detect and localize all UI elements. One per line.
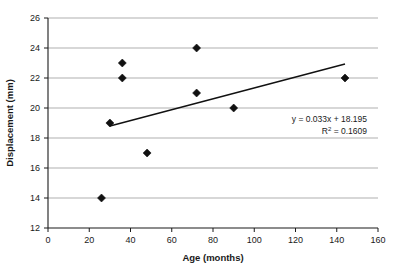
x-tick-marks xyxy=(48,228,378,232)
y-tick-labels: 12 14 16 18 20 22 24 26 xyxy=(30,13,40,233)
y-tick-label: 24 xyxy=(30,43,40,53)
x-tick-label: 120 xyxy=(288,235,303,245)
x-tick-label: 60 xyxy=(167,235,177,245)
y-tick-label: 12 xyxy=(30,223,40,233)
y-tick-label: 14 xyxy=(30,193,40,203)
y-tick-label: 22 xyxy=(30,73,40,83)
x-axis-title: Age (months) xyxy=(182,252,243,263)
x-tick-label: 80 xyxy=(208,235,218,245)
y-tick-label: 26 xyxy=(30,13,40,23)
x-tick-label: 40 xyxy=(125,235,135,245)
x-tick-labels: 0 20 40 60 80 100 120 140 160 xyxy=(45,235,385,245)
x-tick-label: 140 xyxy=(329,235,344,245)
x-tick-label: 0 xyxy=(45,235,50,245)
y-axis-title: Displacement (mm) xyxy=(4,79,15,167)
x-tick-label: 20 xyxy=(84,235,94,245)
y-tick-label: 20 xyxy=(30,103,40,113)
r-squared-value: = 0.1609 xyxy=(331,126,367,136)
chart-canvas: 12 14 16 18 20 22 24 26 0 20 40 60 80 10… xyxy=(0,0,400,269)
scatter-chart: 12 14 16 18 20 22 24 26 0 20 40 60 80 10… xyxy=(0,0,400,269)
y-tick-label: 18 xyxy=(30,133,40,143)
x-tick-label: 160 xyxy=(370,235,385,245)
x-tick-label: 100 xyxy=(247,235,262,245)
y-tick-label: 16 xyxy=(30,163,40,173)
regression-equation: y = 0.033x + 18.195 xyxy=(292,114,367,124)
y-tick-marks xyxy=(44,18,48,228)
